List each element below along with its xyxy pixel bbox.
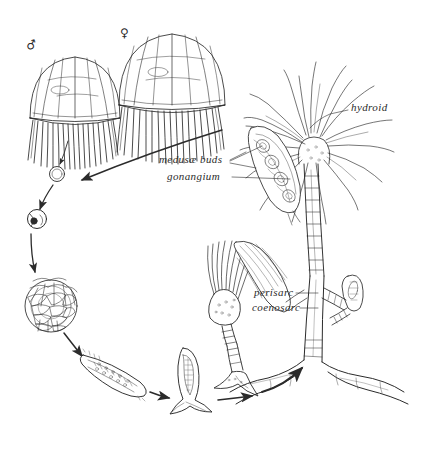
label-medusae-buds: medusæ buds — [159, 153, 222, 165]
two-cell-stage — [28, 210, 47, 229]
arrow-egg-to-cleavage — [40, 185, 53, 209]
arrow-planula-to-settled — [150, 392, 169, 398]
gonangium-primary — [248, 126, 300, 225]
fertilized-egg — [50, 167, 65, 182]
female-symbol: ♀ — [120, 26, 129, 40]
hydroid-colony — [230, 62, 408, 404]
planula-larva — [80, 349, 146, 401]
life-cycle-illustration — [0, 0, 425, 450]
female-medusa — [117, 34, 225, 164]
life-cycle-figure: ♂ ♀ hydroid medusæ buds gonangium perisa… — [0, 0, 425, 450]
label-coenosarc: coenosarc — [252, 301, 300, 313]
leader-hydroid — [310, 110, 348, 128]
leader-medusae-buds-c — [230, 163, 256, 168]
arrow-blastula-to-planula — [64, 333, 82, 356]
label-hydroid: hydroid — [351, 101, 388, 113]
blastula — [25, 278, 77, 332]
settled-planula — [170, 348, 212, 414]
male-medusa — [28, 57, 120, 169]
label-perisarc: perisarc — [254, 286, 293, 298]
arrow-cleavage-to-blastula — [31, 234, 35, 272]
leader-medusae-buds-a — [230, 152, 246, 160]
label-gonangium: gonangium — [167, 170, 220, 182]
